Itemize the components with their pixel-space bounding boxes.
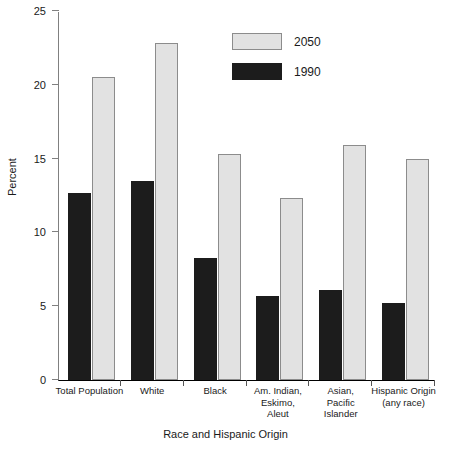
legend-item-1990: 1990 [232, 61, 321, 82]
y-tick-label: 20 [34, 79, 46, 90]
y-tick-label: 5 [40, 301, 46, 312]
x-axis-title: Race and Hispanic Origin [0, 428, 451, 440]
y-tick-label: 0 [40, 375, 46, 386]
bar-1990 [382, 303, 405, 380]
legend-item-2050: 2050 [232, 31, 321, 52]
y-tick-0: 0 [52, 379, 59, 380]
category-label: Hispanic Origin(any race) [364, 385, 443, 408]
y-tick-label: 25 [34, 6, 46, 17]
y-tick-10: 10 [52, 231, 59, 232]
chart-legend: 2050 1990 [232, 31, 321, 91]
y-tick-15: 15 [52, 158, 59, 159]
x-axis-category-labels: Total PopulationWhiteBlackAm. Indian,Esk… [58, 385, 435, 433]
light-gray-swatch-icon [232, 33, 282, 50]
y-tick-25: 25 [52, 10, 59, 11]
category-label-line: Islander [301, 408, 380, 420]
y-tick-20: 20 [52, 84, 59, 85]
y-tick-label: 15 [34, 153, 46, 164]
category-label-line: Hispanic Origin [364, 385, 443, 397]
bar-2050 [406, 159, 429, 380]
category-label-line: (any race) [364, 397, 443, 409]
y-tick-5: 5 [52, 305, 59, 306]
black-swatch-icon [232, 63, 282, 80]
y-tick-label: 10 [34, 227, 46, 238]
percent-by-race-bar-chart: Percent 0510152025 Total PopulationWhite… [0, 0, 451, 454]
y-axis-title: Percent [6, 158, 18, 196]
legend-label-2050: 2050 [294, 35, 321, 49]
legend-label-1990: 1990 [294, 65, 321, 79]
